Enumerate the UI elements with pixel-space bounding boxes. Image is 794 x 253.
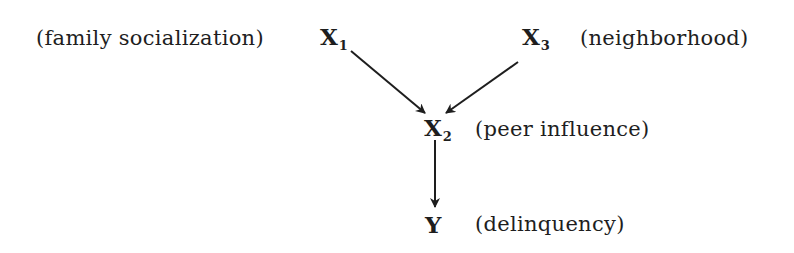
- node-y-label: (delinquency): [475, 212, 625, 236]
- node-x1-subscript: 1: [339, 38, 348, 53]
- node-x3-subscript: 3: [541, 38, 550, 53]
- node-y: Y: [425, 211, 441, 238]
- edge-x3-to-x2: [446, 62, 518, 113]
- node-x2: X2: [424, 114, 452, 144]
- node-x3-symbol: X: [522, 23, 540, 50]
- node-x1-label: (family socialization): [36, 26, 264, 50]
- node-x3: X3: [522, 23, 550, 53]
- edge-x1-to-x2: [351, 51, 425, 113]
- node-x2-symbol: X: [424, 114, 442, 141]
- node-y-symbol: Y: [425, 211, 441, 238]
- node-x3-label: (neighborhood): [580, 26, 749, 50]
- node-x2-subscript: 2: [443, 129, 452, 144]
- node-x1-symbol: X: [320, 23, 338, 50]
- node-x1: X1: [320, 23, 348, 53]
- node-x2-label: (peer influence): [475, 117, 650, 141]
